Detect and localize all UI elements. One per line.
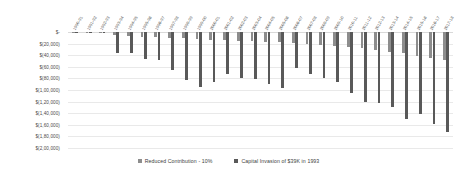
x-axis-tick-label: 2008-09 bbox=[319, 15, 331, 31]
bar-group bbox=[137, 32, 151, 148]
bar-group bbox=[329, 32, 343, 148]
bar-group bbox=[68, 32, 82, 148]
bar bbox=[295, 32, 298, 68]
legend-item[interactable]: Reduced Contribution - 10% bbox=[138, 158, 213, 164]
x-axis-tick-label: 2011-12 bbox=[360, 15, 372, 31]
bar bbox=[144, 32, 147, 59]
x-axis-tick-label: 2016-17 bbox=[429, 15, 441, 31]
bar bbox=[99, 32, 102, 33]
bar bbox=[378, 32, 381, 103]
x-axis-tick-label: 2014-15 bbox=[402, 15, 414, 31]
bar bbox=[196, 32, 199, 39]
bar bbox=[89, 32, 92, 33]
x-axis-tick-label: 2005-06 bbox=[278, 15, 290, 31]
x-axis-tick-label: 2010-11 bbox=[347, 15, 359, 31]
bar-group bbox=[247, 32, 261, 148]
bar-group bbox=[426, 32, 440, 148]
bar bbox=[86, 32, 89, 33]
x-axis-tick-label: 2002-03 bbox=[237, 15, 249, 31]
bar-group bbox=[274, 32, 288, 148]
x-axis-tick-label: 1999-00 bbox=[195, 15, 207, 31]
bar bbox=[429, 32, 432, 58]
y-axis-tick-label: $(1,40,000) bbox=[35, 111, 60, 116]
bar-group bbox=[206, 32, 220, 148]
x-axis-tick-label: 2004-05 bbox=[264, 15, 276, 31]
bar bbox=[116, 32, 119, 53]
bar bbox=[264, 32, 267, 42]
bar bbox=[251, 32, 254, 41]
bar-group bbox=[82, 32, 96, 148]
x-axis-tick-label: 2000-01 bbox=[209, 15, 221, 31]
x-axis-tick-label: 1997-98 bbox=[168, 15, 180, 31]
legend-item[interactable]: Capital Invasion of $39K in 1993 bbox=[234, 158, 319, 164]
bar bbox=[416, 32, 419, 56]
bar bbox=[171, 32, 174, 70]
bar bbox=[199, 32, 202, 87]
bar bbox=[103, 32, 106, 33]
bar-chart: 1990-911991-921992-931993-941994-951995-… bbox=[0, 0, 457, 178]
bar-group bbox=[164, 32, 178, 148]
bar bbox=[278, 32, 281, 42]
bar-group bbox=[439, 32, 453, 148]
plot-area bbox=[68, 32, 453, 148]
x-axis-tick-label: 2006-07 bbox=[292, 15, 304, 31]
bar bbox=[433, 32, 436, 124]
x-axis-tick-label: 2003-04 bbox=[250, 15, 262, 31]
bar-group bbox=[343, 32, 357, 148]
x-axis-tick-label: 1990-91 bbox=[72, 15, 84, 31]
bar-group bbox=[178, 32, 192, 148]
bar bbox=[158, 32, 161, 60]
bar bbox=[361, 32, 364, 48]
bar bbox=[209, 32, 212, 40]
bar bbox=[213, 32, 216, 82]
bar bbox=[292, 32, 295, 43]
bar bbox=[402, 32, 405, 53]
bar-group bbox=[398, 32, 412, 148]
y-axis: $-$(20,000)$(40,000)$(60,000)$(80,000)$(… bbox=[0, 32, 64, 148]
bar-group bbox=[261, 32, 275, 148]
bar bbox=[323, 32, 326, 78]
bar bbox=[223, 32, 226, 40]
bar-group bbox=[96, 32, 110, 148]
bar bbox=[388, 32, 391, 52]
y-axis-tick-label: $(1,60,000) bbox=[35, 122, 60, 127]
x-axis-tick-label: 1993-94 bbox=[113, 15, 125, 31]
bar bbox=[446, 32, 449, 132]
bar bbox=[154, 32, 157, 37]
bar bbox=[254, 32, 257, 79]
y-axis-tick-label: $- bbox=[56, 30, 60, 35]
bar-group bbox=[316, 32, 330, 148]
x-axis-tick-label: 2013-14 bbox=[388, 15, 400, 31]
y-axis-tick-label: $(20,000) bbox=[39, 41, 60, 46]
bar-group bbox=[288, 32, 302, 148]
x-axis-tick-label: 2012-13 bbox=[374, 15, 386, 31]
x-axis-tick-label: 2001-02 bbox=[223, 15, 235, 31]
bar bbox=[281, 32, 284, 88]
bar bbox=[226, 32, 229, 74]
bar bbox=[347, 32, 350, 47]
x-axis-tick-label: 1998-99 bbox=[182, 15, 194, 31]
bar bbox=[391, 32, 394, 107]
bar bbox=[127, 32, 130, 36]
x-axis-tick-label: 2015-16 bbox=[415, 15, 427, 31]
x-axis-tick-label: 2017-18 bbox=[443, 15, 455, 31]
bar-group bbox=[219, 32, 233, 148]
bar bbox=[182, 32, 185, 38]
legend-swatch-icon bbox=[138, 159, 142, 163]
x-axis: 1990-911991-921992-931993-941994-951995-… bbox=[68, 0, 453, 31]
x-axis-tick-label: 1996-97 bbox=[154, 15, 166, 31]
bar bbox=[443, 32, 446, 60]
bar bbox=[336, 32, 339, 82]
bar bbox=[185, 32, 188, 80]
y-axis-tick-label: $(1,00,000) bbox=[35, 88, 60, 93]
bar bbox=[350, 32, 353, 93]
gridline bbox=[68, 148, 453, 149]
x-axis-tick-label: 1995-96 bbox=[140, 15, 152, 31]
y-axis-tick-label: $(40,000) bbox=[39, 53, 60, 58]
x-axis-tick-label: 1994-95 bbox=[127, 15, 139, 31]
y-axis-tick-label: $(1,20,000) bbox=[35, 99, 60, 104]
legend-label: Capital Invasion of $39K in 1993 bbox=[241, 158, 319, 164]
bar-group bbox=[412, 32, 426, 148]
x-axis-tick-label: 1992-93 bbox=[99, 15, 111, 31]
bar bbox=[333, 32, 336, 46]
